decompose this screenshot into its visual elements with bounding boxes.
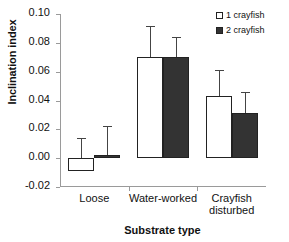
bar-chart-figure: Inclination index 0.100.080.060.040.020.…	[0, 0, 289, 242]
legend-label: 2 crayfish	[226, 25, 265, 35]
error-bar-cap	[77, 138, 86, 139]
error-bar-whisker	[107, 126, 108, 155]
x-tick-label: Water-worked	[129, 192, 198, 204]
error-bar-whisker	[81, 138, 82, 158]
y-tick: 0.02	[56, 129, 60, 130]
legend-label: 1 crayfish	[226, 10, 265, 20]
y-tick-label: 0.08	[29, 35, 50, 47]
y-tick-label: 0.00	[29, 150, 50, 162]
x-tick	[129, 187, 130, 191]
bar	[68, 158, 94, 171]
y-axis-title: Inclination index	[6, 2, 18, 122]
y-tick-label: 0.10	[29, 6, 50, 18]
y-tick-label: -0.02	[25, 179, 50, 191]
error-bar-cap	[172, 37, 181, 38]
x-tick	[197, 187, 198, 191]
bar	[94, 155, 120, 158]
x-tick-label: Crayfish disturbed	[197, 192, 266, 216]
bar	[137, 57, 163, 158]
bar	[232, 113, 258, 158]
y-tick: 0.00	[56, 158, 60, 159]
y-tick: -0.02	[56, 187, 60, 188]
y-tick: 0.08	[56, 43, 60, 44]
x-axis-title: Substrate type	[60, 224, 265, 236]
error-bar-whisker	[176, 37, 177, 57]
y-tick: 0.06	[56, 72, 60, 73]
bar	[206, 96, 232, 158]
error-bar-cap	[103, 126, 112, 127]
error-bar-whisker	[219, 70, 220, 96]
legend-item: 1 crayfish	[216, 10, 265, 20]
error-bar-cap	[241, 92, 250, 93]
error-bar-whisker	[150, 26, 151, 58]
legend-item: 2 crayfish	[216, 25, 265, 35]
y-tick-label: 0.04	[29, 93, 50, 105]
y-tick-label: 0.06	[29, 64, 50, 76]
error-bar-cap	[146, 26, 155, 27]
x-axis-line	[60, 186, 266, 187]
y-tick: 0.04	[56, 101, 60, 102]
y-axis-line	[60, 14, 61, 187]
y-tick: 0.10	[56, 14, 60, 15]
error-bar-cap	[215, 70, 224, 71]
x-tick-label: Loose	[60, 192, 129, 204]
chart-legend: 1 crayfish2 crayfish	[216, 10, 265, 40]
open-square-icon	[216, 12, 223, 19]
error-bar-whisker	[245, 92, 246, 114]
filled-square-icon	[216, 27, 223, 34]
bar	[163, 57, 189, 158]
y-tick-label: 0.02	[29, 121, 50, 133]
